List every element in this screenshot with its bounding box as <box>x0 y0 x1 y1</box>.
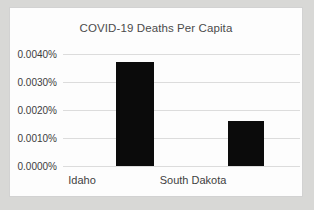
x-tick-label-idaho: Idaho <box>63 174 101 186</box>
chart-frame: COVID-19 Deaths Per Capita 0.0040% 0.003… <box>9 7 303 197</box>
y-tick-label-2: 0.0020% <box>18 105 57 116</box>
y-tick-label-4: 0.0000% <box>18 161 57 172</box>
bar-idaho[interactable] <box>116 62 154 166</box>
y-tick-label-0: 0.0040% <box>18 49 57 60</box>
chart-title: COVID-19 Deaths Per Capita <box>10 22 302 34</box>
bars-layer <box>63 54 300 166</box>
y-tick-label-1: 0.0030% <box>18 77 57 88</box>
y-axis: 0.0040% 0.0030% 0.0020% 0.0010% 0.0000% <box>10 54 57 166</box>
y-tick-label-3: 0.0010% <box>18 133 57 144</box>
gridline-4 <box>63 166 300 167</box>
bar-south-dakota[interactable] <box>228 121 264 166</box>
x-tick-label-south-dakota: South Dakota <box>154 174 232 186</box>
